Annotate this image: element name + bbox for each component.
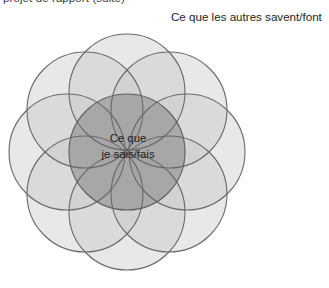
venn-diagram-canvas	[0, 0, 329, 288]
venn-diagram	[0, 0, 329, 288]
center-circle-fill	[69, 94, 185, 210]
